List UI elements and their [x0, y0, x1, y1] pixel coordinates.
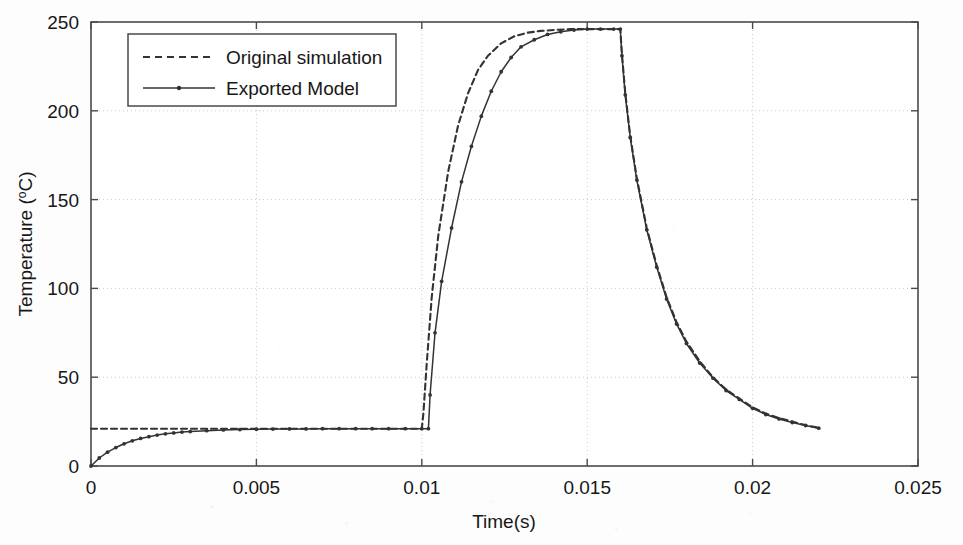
series-marker — [698, 361, 702, 365]
series-marker — [655, 265, 659, 269]
series-marker — [790, 421, 794, 425]
series-marker — [645, 228, 649, 232]
series-marker — [147, 435, 151, 439]
series-marker — [304, 427, 308, 431]
series-marker — [470, 144, 474, 148]
series-marker — [665, 297, 669, 301]
series-marker — [188, 430, 192, 434]
series-marker — [751, 406, 755, 410]
series-marker — [255, 427, 259, 431]
series-marker — [433, 331, 437, 335]
series-marker — [612, 27, 616, 31]
series-marker — [479, 114, 483, 118]
y-tick-label: 0 — [68, 456, 79, 477]
series-marker — [427, 427, 431, 431]
series-marker — [489, 89, 493, 93]
series-marker — [618, 27, 622, 31]
x-axis-tick-labels: 00.0050.010.0150.020.025 — [86, 477, 942, 498]
series-marker — [387, 427, 391, 431]
series-marker — [106, 450, 110, 454]
series-marker — [288, 427, 292, 431]
x-tick-label: 0.015 — [563, 477, 611, 498]
series-marker — [238, 428, 242, 432]
series-marker — [337, 427, 341, 431]
series-marker — [777, 417, 781, 421]
series-marker — [764, 413, 768, 417]
series-marker — [97, 456, 101, 460]
y-axis-title-main: Temperature ( — [15, 198, 36, 317]
series-marker — [572, 28, 576, 32]
series-marker — [532, 38, 536, 42]
series-marker — [519, 45, 523, 49]
series-marker — [122, 442, 126, 446]
series-marker — [623, 93, 627, 97]
temperature-time-line-chart: 00.0050.010.0150.020.025 050100150200250… — [0, 0, 963, 545]
series-marker — [354, 427, 358, 431]
series-marker — [737, 398, 741, 402]
legend-label-exported-model: Exported Model — [226, 78, 359, 99]
series-marker — [628, 136, 632, 140]
x-tick-label: 0.005 — [233, 477, 281, 498]
series-marker — [804, 424, 808, 428]
series-marker — [440, 279, 444, 283]
series-marker — [817, 426, 821, 430]
y-axis-title: Temperature (oC) — [15, 171, 36, 316]
series-marker — [130, 439, 134, 443]
series-marker — [420, 427, 424, 431]
x-axis-title: Time(s) — [472, 511, 536, 532]
series-marker — [321, 427, 325, 431]
x-tick-label: 0.025 — [894, 477, 942, 498]
x-tick-label: 0.01 — [403, 477, 440, 498]
series-marker — [499, 70, 503, 74]
series-marker — [114, 446, 118, 450]
y-tick-label: 50 — [58, 367, 79, 388]
series-marker — [460, 180, 464, 184]
series-marker — [546, 33, 550, 37]
svg-text:Temperature (oC): Temperature (oC) — [15, 171, 36, 316]
series-marker — [450, 226, 454, 230]
series-marker — [271, 427, 275, 431]
series-marker — [403, 427, 407, 431]
series-marker — [724, 389, 728, 393]
legend-label-original-simulation: Original simulation — [226, 47, 382, 68]
y-tick-label: 200 — [47, 101, 79, 122]
series-marker — [559, 30, 563, 34]
x-tick-label: 0 — [86, 477, 97, 498]
series-marker — [221, 428, 225, 432]
y-tick-label: 100 — [47, 278, 79, 299]
series-marker — [428, 393, 432, 397]
series-marker — [620, 54, 624, 58]
series-marker — [675, 322, 679, 326]
series-marker — [711, 376, 715, 380]
series-marker — [585, 27, 589, 31]
series-marker — [685, 342, 689, 346]
series-marker — [172, 431, 176, 435]
series-marker — [509, 56, 513, 60]
y-axis-title-unit: C) — [15, 171, 36, 191]
legend-swatch-marker-dot — [177, 86, 181, 90]
y-tick-label: 250 — [47, 12, 79, 33]
series-marker — [155, 433, 159, 437]
chart-legend[interactable]: Original simulation Exported Model — [128, 34, 396, 106]
y-axis-tick-labels: 050100150200250 — [47, 12, 79, 477]
y-tick-label: 150 — [47, 190, 79, 211]
x-tick-label: 0.02 — [734, 477, 771, 498]
series-marker — [370, 427, 374, 431]
series-marker — [89, 464, 93, 468]
series-marker — [635, 178, 639, 182]
series-marker — [180, 430, 184, 434]
series-marker — [139, 437, 143, 441]
series-marker — [205, 429, 209, 433]
series-marker — [164, 432, 168, 436]
chart-figure: 00.0050.010.0150.020.025 050100150200250… — [0, 0, 963, 545]
series-marker — [599, 27, 603, 31]
